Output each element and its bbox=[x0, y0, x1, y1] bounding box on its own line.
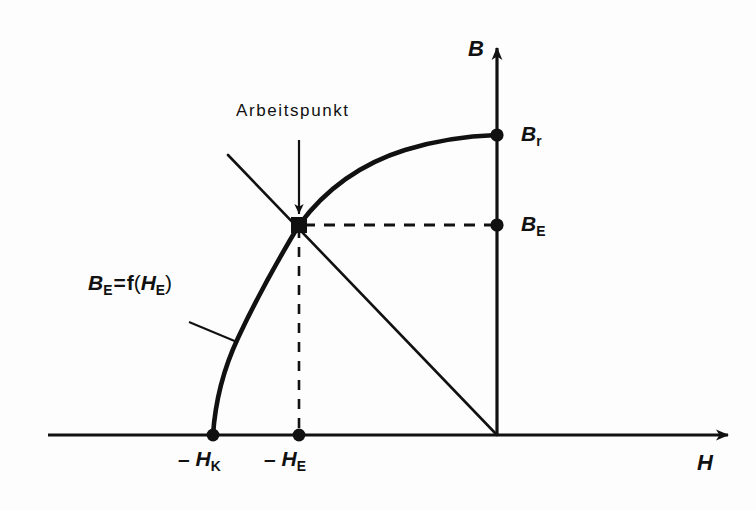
remanence-label: Br bbox=[521, 123, 542, 144]
b-axis-label: B bbox=[468, 38, 484, 60]
figure-root: Arbeitspunkt B H Br BE – HK – HE BE=f(HE… bbox=[0, 0, 756, 511]
working-field-tick-base: – H bbox=[264, 447, 297, 470]
curve-equation-b-subscript: E bbox=[103, 282, 112, 298]
curve-equation-leader-line bbox=[189, 322, 237, 342]
point-he-marker bbox=[293, 429, 306, 442]
working-field-tick-subscript: E bbox=[297, 458, 306, 474]
point-be-marker bbox=[490, 218, 503, 231]
remanence-label-subscript: r bbox=[536, 133, 541, 149]
h-axis-label: H bbox=[697, 452, 713, 474]
working-flux-density-base: B bbox=[521, 212, 536, 235]
working-flux-density-subscript: E bbox=[536, 223, 545, 239]
point-hk-marker bbox=[207, 429, 220, 442]
coercivity-tick-label: – HK bbox=[178, 448, 221, 469]
curve-equation-open-paren: ( bbox=[134, 271, 141, 294]
curve-equation-h-subscript: E bbox=[156, 282, 165, 298]
coercivity-tick-subscript: K bbox=[211, 458, 221, 474]
curve-equation-function: f bbox=[127, 271, 134, 294]
curve-equation-equals: = bbox=[112, 271, 126, 294]
curve-equation-label: BE=f(HE) bbox=[88, 272, 172, 293]
coercivity-tick-base: – H bbox=[178, 447, 211, 470]
operating-point-annotation-label: Arbeitspunkt bbox=[236, 102, 350, 119]
bh-curve-diagram bbox=[0, 0, 756, 511]
point-br-marker bbox=[490, 128, 503, 141]
operating-point-marker bbox=[291, 217, 307, 233]
working-field-tick-label: – HE bbox=[264, 448, 306, 469]
remanence-label-base: B bbox=[521, 122, 536, 145]
curve-equation-b: B bbox=[88, 271, 103, 294]
load-line bbox=[228, 155, 497, 435]
working-flux-density-label: BE bbox=[521, 213, 545, 234]
curve-equation-h: H bbox=[141, 271, 156, 294]
curve-equation-close-paren: ) bbox=[165, 271, 172, 294]
